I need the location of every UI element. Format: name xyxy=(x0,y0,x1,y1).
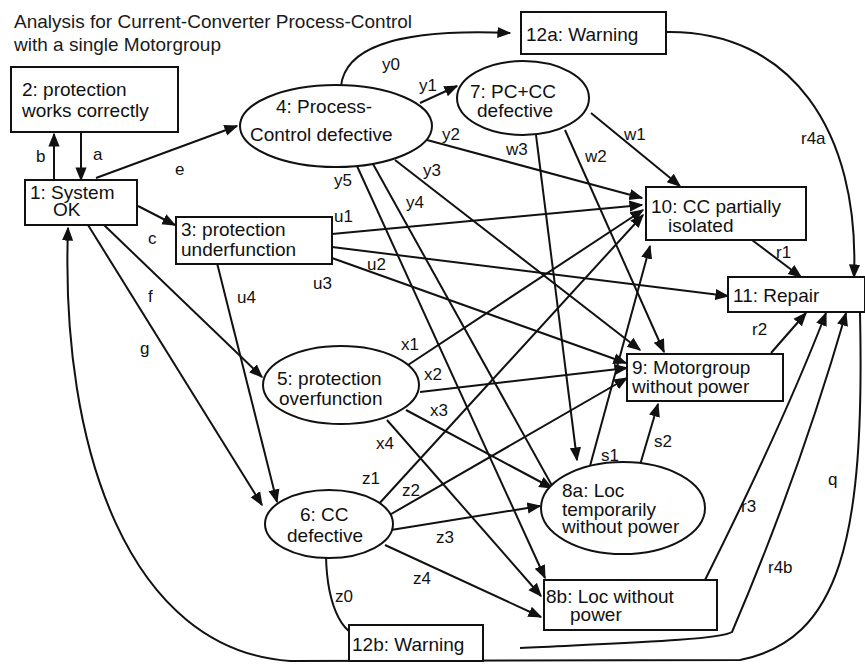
node-12b-warning: 12b: Warning xyxy=(349,625,483,661)
edge-label-z1: z1 xyxy=(362,469,380,488)
edge-label-f: f xyxy=(148,287,153,306)
node-5-protection-overfunction: 5: protection overfunction xyxy=(263,346,419,424)
edge-label-w1: w1 xyxy=(623,125,646,144)
node-12a-warning: 12a: Warning xyxy=(521,12,666,54)
state-transition-diagram: a b e c f g y0 y1 y2 y3 y4 y5 w1 w2 w3 u… xyxy=(0,0,865,668)
svg-text:11: Repair: 11: Repair xyxy=(733,285,820,306)
svg-text:12a: Warning: 12a: Warning xyxy=(526,24,638,45)
edge-label-x3: x3 xyxy=(430,401,448,420)
edge-g xyxy=(88,225,262,505)
edge-r2 xyxy=(771,313,806,353)
svg-text:4: Process-: 4: Process- xyxy=(276,96,372,117)
svg-text:3: protection: 3: protection xyxy=(181,219,286,240)
svg-text:without power: without power xyxy=(561,516,680,537)
edge-x4 xyxy=(387,420,541,596)
node-10-cc-partially-isolated: 10: CC partially isolated xyxy=(646,187,806,240)
edge-label-x2: x2 xyxy=(424,365,442,384)
edge-u2 xyxy=(332,247,728,296)
edge-x1 xyxy=(408,210,643,365)
edge-label-x4: x4 xyxy=(376,434,394,453)
edge-y2 xyxy=(427,140,642,198)
node-11-repair: 11: Repair xyxy=(728,277,865,312)
node-8b-loc-without-power: 8b: Loc without power xyxy=(544,580,717,630)
node-1-system-ok: 1: System OK xyxy=(25,180,137,225)
edge-e xyxy=(96,126,237,178)
node-8a-loc-temporarily-without-power: 8a: Loc temporarily without power xyxy=(541,462,705,554)
svg-text:underfunction: underfunction xyxy=(181,239,296,260)
svg-text:8a: Loc: 8a: Loc xyxy=(562,480,624,501)
svg-text:without power: without power xyxy=(631,376,750,397)
edge-label-r4a: r4a xyxy=(801,129,826,148)
svg-text:defective: defective xyxy=(477,100,553,121)
edge-label-r3: r3 xyxy=(741,497,756,516)
svg-text:OK: OK xyxy=(53,199,81,220)
edge-label-q: q xyxy=(828,470,837,489)
svg-text:5: protection: 5: protection xyxy=(277,368,382,389)
edge-label-w2: w2 xyxy=(584,147,607,166)
node-3-protection-underfunction: 3: protection underfunction xyxy=(176,217,332,264)
svg-text:defective: defective xyxy=(287,525,363,546)
edge-label-u3: u3 xyxy=(313,274,332,293)
edge-label-y2: y2 xyxy=(442,125,460,144)
svg-text:2: protection: 2: protection xyxy=(22,79,127,100)
edge-u1 xyxy=(332,205,642,234)
svg-text:12b: Warning: 12b: Warning xyxy=(352,634,464,655)
svg-text:7: PC+CC: 7: PC+CC xyxy=(470,81,556,102)
svg-text:9: Motorgroup: 9: Motorgroup xyxy=(632,357,750,378)
svg-text:works correctly: works correctly xyxy=(21,100,149,121)
edge-label-r2: r2 xyxy=(752,320,767,339)
edge-label-r4b: r4b xyxy=(768,558,793,577)
edge-label-y3: y3 xyxy=(423,161,441,180)
edge-label-z0: z0 xyxy=(335,587,353,606)
edge-label-a: a xyxy=(93,145,103,164)
svg-text:overfunction: overfunction xyxy=(279,388,383,409)
edge-label-w3: w3 xyxy=(505,140,528,159)
edge-label-s2: s2 xyxy=(654,432,672,451)
edge-label-z2: z2 xyxy=(402,481,420,500)
svg-text:10: CC partially: 10: CC partially xyxy=(651,196,781,217)
edge-label-y1: y1 xyxy=(419,76,437,95)
svg-text:power: power xyxy=(570,604,622,625)
edge-label-b: b xyxy=(36,147,45,166)
edge-label-e: e xyxy=(175,160,184,179)
edge-z4 xyxy=(385,545,541,617)
edge-label-y0: y0 xyxy=(382,55,400,74)
edge-c xyxy=(138,206,175,225)
edge-label-u4: u4 xyxy=(237,288,256,307)
svg-text:isolated: isolated xyxy=(668,215,734,236)
edge-label-z4: z4 xyxy=(413,569,431,588)
node-9-motorgroup-without-power: 9: Motorgroup without power xyxy=(627,354,783,401)
svg-text:Control defective: Control defective xyxy=(250,124,393,145)
svg-text:6: CC: 6: CC xyxy=(300,504,349,525)
edge-label-z3: z3 xyxy=(436,528,454,547)
edge-label-r1: r1 xyxy=(776,243,791,262)
edge-label-u2: u2 xyxy=(367,255,386,274)
edge-label-g: g xyxy=(140,339,149,358)
node-4-process-control-defective: 4: Process- Control defective xyxy=(240,85,432,167)
edge-label-c: c xyxy=(148,229,157,248)
edge-label-u1: u1 xyxy=(334,207,353,226)
edge-label-x1: x1 xyxy=(401,335,419,354)
node-7-pc-cc-defective: 7: PC+CC defective xyxy=(457,61,589,135)
edge-label-y4: y4 xyxy=(406,193,424,212)
node-2-protection-works-correctly: 2: protection works correctly xyxy=(11,67,178,132)
edge-label-y5: y5 xyxy=(334,171,352,190)
nodes: 2: protection works correctly 1: System … xyxy=(11,12,865,661)
node-6-cc-defective: 6: CC defective xyxy=(265,490,393,558)
